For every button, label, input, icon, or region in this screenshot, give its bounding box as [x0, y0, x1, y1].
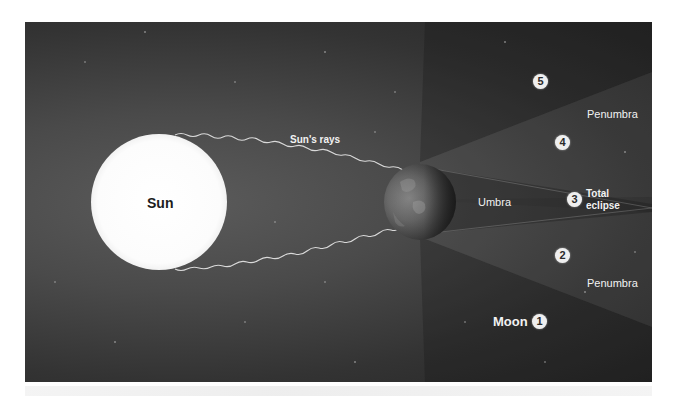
total-eclipse-line1: Total [586, 188, 620, 200]
moon-position-1: 1 [532, 314, 547, 329]
page: Sun Sun's rays Umbra Penumbra Penumbra T… [0, 0, 676, 402]
eclipse-diagram-panel: Sun Sun's rays Umbra Penumbra Penumbra T… [25, 22, 652, 382]
moon-label: Moon [493, 315, 528, 328]
earth [384, 164, 456, 240]
total-eclipse-label: Total eclipse [586, 188, 620, 212]
umbra-label: Umbra [478, 197, 511, 208]
moon-position-2: 2 [555, 248, 570, 263]
eclipse-diagram-svg [25, 22, 652, 382]
moon-position-3: 3 [567, 192, 582, 207]
caption-strip [25, 386, 652, 396]
sun-label: Sun [147, 196, 173, 210]
sun-rays-label: Sun's rays [290, 135, 340, 145]
moon-position-4: 4 [555, 135, 570, 150]
total-eclipse-line2: eclipse [586, 200, 620, 212]
penumbra-upper-label: Penumbra [587, 109, 638, 120]
moon-position-5: 5 [533, 74, 548, 89]
penumbra-lower-label: Penumbra [587, 278, 638, 289]
